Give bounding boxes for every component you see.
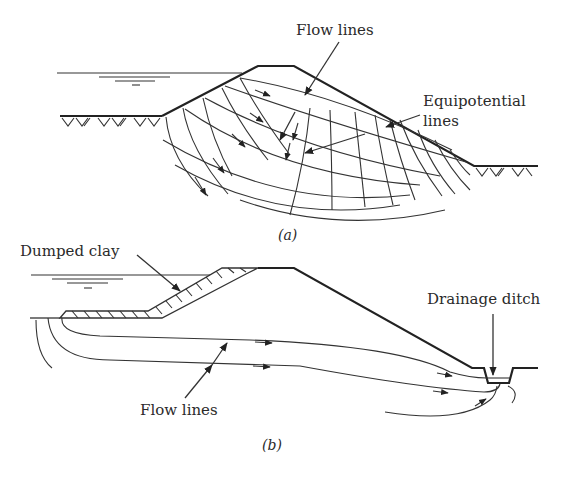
flow-net-arcs: [163, 78, 466, 220]
flow-lines-b: [36, 318, 515, 416]
water-surface-icon: [57, 73, 242, 85]
leader-equipotential-2: [305, 134, 365, 153]
label-equipotential-line1: Equipotential: [423, 92, 526, 110]
leader-flow-lines-b-2: [212, 343, 227, 365]
caption-a: (a): [278, 227, 297, 243]
figure-a: Flow lines Equipotential lines (a): [57, 21, 538, 243]
dam-outline-a: [162, 66, 538, 166]
leader-flow-lines-a-2: [280, 112, 295, 140]
leader-dumped-clay: [137, 255, 180, 291]
water-surface-icon-b: [31, 275, 210, 288]
label-drainage-ditch: Drainage ditch: [427, 290, 541, 308]
ground-hatch-right-icon: [476, 168, 532, 176]
flow-arrows-b: [253, 342, 486, 406]
equipotential-lines: [166, 78, 290, 196]
label-flow-lines-a: Flow lines: [296, 21, 374, 39]
leader-flow-lines-b: [185, 365, 212, 398]
ground-hatch-left-icon: [60, 116, 162, 126]
label-flow-lines-b: Flow lines: [140, 401, 218, 419]
figure-b: Dumped clay Drainage ditch Flow lines (b…: [20, 242, 541, 453]
label-dumped-clay: Dumped clay: [20, 242, 120, 260]
label-equipotential-line2: lines: [423, 112, 459, 130]
caption-b: (b): [262, 437, 282, 453]
